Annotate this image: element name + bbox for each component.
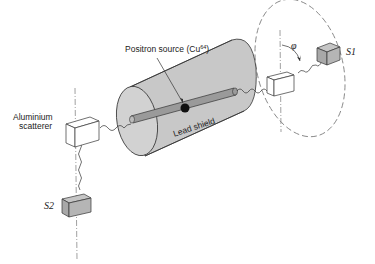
right-scatterer-box xyxy=(267,72,294,96)
positron-source-dot xyxy=(181,104,190,113)
rotation-circle xyxy=(241,0,358,146)
source-label-suffix: ) xyxy=(206,44,209,54)
detector-s2-box xyxy=(62,194,91,217)
source-label-text: Positron source (Cu xyxy=(125,44,200,54)
detector-s1-label: S1 xyxy=(346,47,356,57)
detector-s1-box xyxy=(317,43,340,65)
aluminium-scatterer-box xyxy=(66,117,99,147)
lead-shield-cylinder xyxy=(111,39,256,159)
scatterer-label-line2: scatterer xyxy=(19,122,52,131)
axis-left xyxy=(75,88,77,260)
detector-s2-label: S2 xyxy=(44,201,54,211)
positron-source-label: Positron source (Cu64) xyxy=(125,45,209,54)
angle-phi-label: φ xyxy=(291,41,297,51)
